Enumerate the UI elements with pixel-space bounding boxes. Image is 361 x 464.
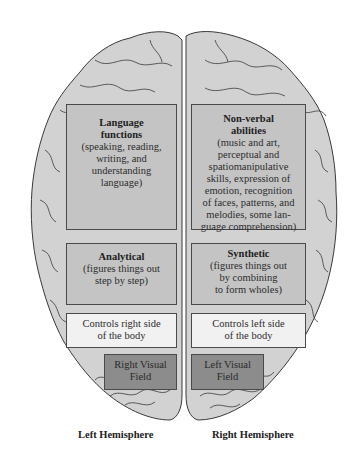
language-functions-desc-line: (speaking, reading,: [67, 141, 176, 153]
synthetic-title: Synthetic: [192, 248, 305, 260]
language-functions-desc-line: writing, and: [67, 153, 176, 165]
right-visual-field-box: Right Visual Field: [104, 354, 177, 390]
non-verbal-desc-line: (music and art,: [192, 137, 305, 149]
synthetic-desc-line: by combining: [192, 272, 305, 284]
controls-left-side-line: of the body: [192, 330, 305, 342]
analytical-box: Analytical (figures things out step by s…: [66, 243, 177, 305]
language-functions-desc-line: understanding: [67, 165, 176, 177]
synthetic-box: Synthetic (figures things out by combini…: [191, 243, 306, 305]
non-verbal-desc-line: perceptual and: [192, 149, 305, 161]
right-hemisphere-label: Right Hemisphere: [212, 429, 294, 440]
brain-illustration: [0, 0, 361, 464]
non-verbal-desc-line: of faces, patterns, and: [192, 197, 305, 209]
non-verbal-desc-line: spatiomanipulative: [192, 161, 305, 173]
left-visual-field-line: Left Visual: [192, 359, 263, 371]
analytical-title: Analytical: [67, 251, 176, 263]
right-visual-field-line: Field: [105, 371, 176, 383]
language-functions-box: Language functions (speaking, reading, w…: [66, 104, 177, 230]
synthetic-desc-line: (figures things out: [192, 260, 305, 272]
synthetic-desc-line: to form wholes): [192, 284, 305, 296]
non-verbal-desc-line: skills, expression of: [192, 173, 305, 185]
non-verbal-abilities-box: Non-verbal abilities (music and art, per…: [191, 104, 306, 230]
language-functions-desc-line: language): [67, 177, 176, 189]
non-verbal-desc-line: guage comprehension): [192, 221, 305, 233]
non-verbal-desc-line: melodies, some lan-: [192, 209, 305, 221]
language-functions-title-line1: Language: [67, 117, 176, 129]
analytical-desc-line: (figures things out: [67, 263, 176, 275]
non-verbal-title-line2: abilities: [192, 125, 305, 137]
right-visual-field-line: Right Visual: [105, 359, 176, 371]
left-visual-field-box: Left Visual Field: [191, 354, 264, 390]
left-visual-field-line: Field: [192, 371, 263, 383]
controls-left-side-box: Controls left side of the body: [191, 313, 306, 348]
controls-right-side-line: Controls right side: [67, 318, 176, 330]
controls-right-side-line: of the body: [67, 330, 176, 342]
non-verbal-desc-line: emotion, recognition: [192, 185, 305, 197]
language-functions-title-line2: functions: [67, 129, 176, 141]
controls-right-side-box: Controls right side of the body: [66, 313, 177, 348]
left-hemisphere-label: Left Hemisphere: [78, 429, 153, 440]
non-verbal-title-line1: Non-verbal: [192, 113, 305, 125]
analytical-desc-line: step by step): [67, 275, 176, 287]
controls-left-side-line: Controls left side: [192, 318, 305, 330]
